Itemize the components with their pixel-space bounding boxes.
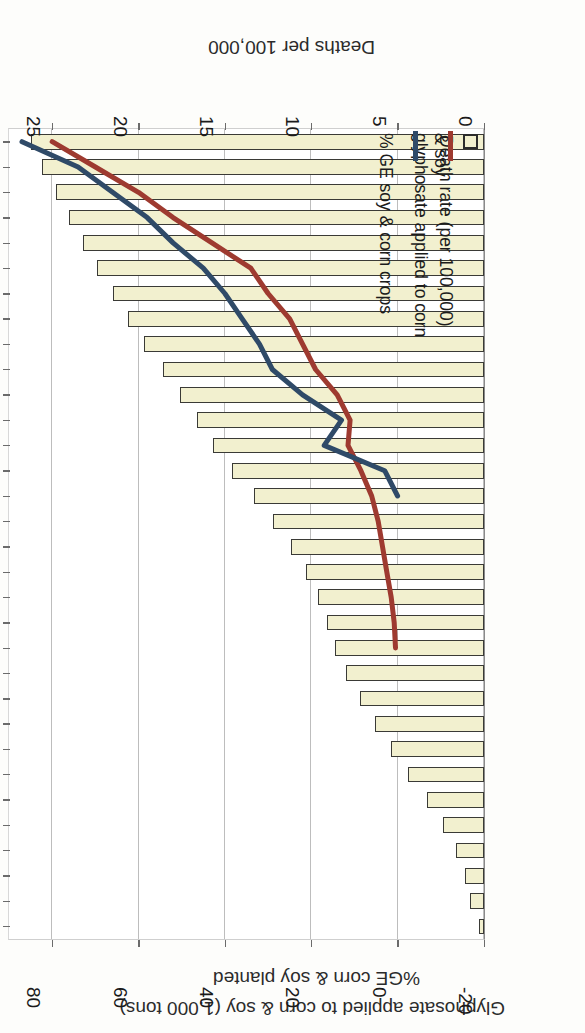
top-axis-tick-label: 0	[368, 987, 390, 998]
tick-mark	[3, 521, 10, 522]
tick-mark	[3, 369, 10, 370]
legend: Death rate (per 100,000) glyphosate appl…	[410, 125, 480, 395]
ge-crops-line	[22, 142, 398, 496]
tick-mark	[3, 850, 10, 851]
tick-mark	[3, 926, 10, 927]
tick-mark	[3, 901, 10, 902]
tick-mark	[3, 268, 10, 269]
tick-mark	[3, 318, 10, 319]
tick-mark	[397, 123, 398, 130]
top-axis-tick-label: 60	[109, 987, 131, 1008]
tick-mark	[3, 496, 10, 497]
bottom-axis-tick-label: 25	[22, 116, 44, 137]
tick-mark	[484, 940, 485, 947]
legend-label-glyphosate-line2: & soy	[430, 133, 451, 177]
tick-mark	[311, 940, 312, 947]
bottom-axis-tick-label: 15	[195, 116, 217, 137]
tick-mark	[3, 243, 10, 244]
tick-mark	[3, 217, 10, 218]
tick-mark	[3, 673, 10, 674]
tick-mark	[225, 123, 226, 130]
tick-mark	[397, 940, 398, 947]
legend-label-glyphosate-line1: glyphosate applied to corn	[410, 133, 431, 337]
tick-mark	[52, 123, 53, 130]
tick-mark	[311, 123, 312, 130]
tick-mark	[3, 749, 10, 750]
tick-mark	[3, 622, 10, 623]
rotated-figure-wrapper: Deaths per 100,000 %GE corn & soy plante…	[0, 0, 585, 1033]
tick-mark	[3, 546, 10, 547]
bottom-axis-title: Deaths per 100,000	[208, 36, 375, 58]
tick-mark	[3, 141, 10, 142]
tick-mark	[3, 470, 10, 471]
top-axis-tick-label: 20	[281, 987, 303, 1008]
tick-mark	[3, 723, 10, 724]
top-axis-tick-label: 80	[22, 987, 44, 1008]
tick-mark	[3, 394, 10, 395]
glyphosate-line	[52, 142, 395, 648]
tick-mark	[3, 875, 10, 876]
bottom-axis-tick-label: 5	[368, 116, 390, 127]
figure: Deaths per 100,000 %GE corn & soy plante…	[0, 0, 585, 1033]
top-axis-tick-label: 40	[195, 987, 217, 1008]
bottom-axis-tick-label: 10	[281, 116, 303, 137]
top-axis-tick-label: -20	[454, 987, 476, 1014]
legend-swatch-box-icon	[463, 134, 478, 149]
tick-mark	[3, 648, 10, 649]
legend-swatch-line-blue-icon	[413, 131, 418, 161]
legend-label-ge-crops: % GE soy & corn crops	[375, 133, 396, 314]
tick-mark	[3, 825, 10, 826]
tick-mark	[3, 344, 10, 345]
tick-mark	[138, 940, 139, 947]
tick-mark	[3, 698, 10, 699]
tick-mark	[484, 123, 485, 130]
top-axis-title-percent-ge: %GE corn & soy planted	[213, 967, 420, 989]
tick-mark	[3, 192, 10, 193]
tick-mark	[3, 293, 10, 294]
tick-mark	[3, 597, 10, 598]
tick-mark	[52, 940, 53, 947]
tick-mark	[3, 774, 10, 775]
tick-mark	[3, 420, 10, 421]
tick-mark	[3, 167, 10, 168]
bottom-axis-tick-label: 20	[109, 116, 131, 137]
tick-mark	[3, 572, 10, 573]
tick-mark	[225, 940, 226, 947]
tick-mark	[138, 123, 139, 130]
tick-mark	[3, 445, 10, 446]
chart-screenshot: Deaths per 100,000 %GE corn & soy plante…	[0, 0, 585, 1033]
top-axis-title-glyphosate: Glyphosate applied to corn & soy (1,000 …	[119, 997, 505, 1019]
tick-mark	[3, 799, 10, 800]
